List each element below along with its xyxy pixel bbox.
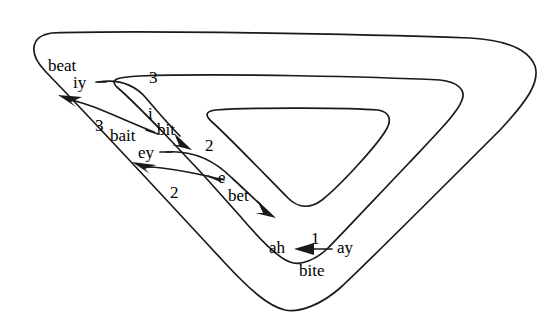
vowel-diagram-svg (0, 0, 554, 325)
label-bite: bite (299, 262, 325, 279)
label-iy: iy (73, 74, 86, 91)
label-number-two-left: 2 (170, 184, 179, 201)
arrow-iy-to-bit-head (172, 133, 192, 150)
label-number-one-bottom: 1 (311, 230, 320, 247)
label-number-three-left: 3 (95, 117, 104, 134)
label-e: e (218, 169, 226, 186)
outer-triangle-path (34, 32, 536, 311)
label-ah: ah (269, 239, 285, 256)
label-bet: bet (228, 187, 249, 204)
label-ay: ay (337, 239, 353, 256)
label-ey: ey (138, 144, 154, 161)
label-bit: bit (157, 121, 175, 138)
label-i: i (148, 105, 153, 122)
label-bait: bait (110, 127, 136, 144)
label-number-two-mid: 2 (205, 137, 214, 154)
label-number-three-top: 3 (149, 69, 158, 86)
label-beat: beat (48, 57, 76, 74)
figure-canvas: beat iy 3 3 i bait bit ey 2 2 e bet ah 1… (0, 0, 554, 325)
